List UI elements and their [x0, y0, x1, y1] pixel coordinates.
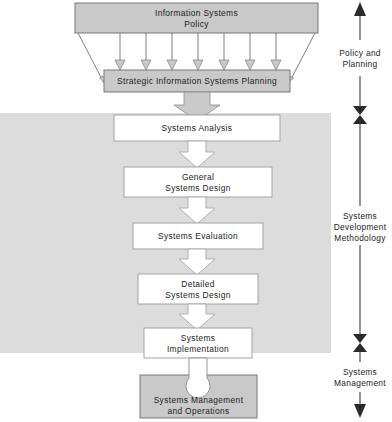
- bowtie-divider-development-management: [353, 334, 367, 352]
- systems-analysis-label: Systems Analysis: [162, 123, 233, 133]
- policy-box-line1: Information Systems: [155, 8, 238, 18]
- fan-arrow-vertical-6: [245, 33, 255, 70]
- detailed-systems-design-line1: Detailed: [181, 279, 215, 289]
- arrowhead-up-policy: [354, 2, 366, 16]
- systems-management-operations-line1: Systems Management: [154, 395, 244, 405]
- fan-arrow-vertical-7: [271, 33, 281, 70]
- arrowhead-down-management: [354, 404, 366, 418]
- fan-arrow-vertical-5: [219, 33, 229, 70]
- detailed-systems-design-line2: Systems Design: [165, 290, 230, 300]
- fan-arrow-vertical-3: [167, 33, 177, 70]
- policy-box-line2: Policy: [184, 19, 209, 29]
- systems-evaluation-label: Systems Evaluation: [158, 231, 238, 241]
- connector-implementation-to-management: [186, 358, 210, 398]
- phase-policy-line1: Policy and: [339, 48, 381, 58]
- phase-management-line2: Management: [334, 378, 386, 388]
- systems-management-operations-line2: and Operations: [167, 406, 229, 416]
- planning-box-label: Strategic Information Systems Planning: [117, 76, 277, 86]
- phase-development-line1: Systems: [343, 211, 377, 221]
- fan-arrow-vertical-4: [193, 33, 203, 70]
- phase-policy-line2: Planning: [343, 59, 378, 69]
- systems-implementation-line2: Implementation: [167, 344, 229, 354]
- phase-development-line2: Development: [334, 222, 387, 232]
- systems-implementation-line1: Systems: [181, 333, 216, 343]
- diagram-canvas: Information Systems Policy: [0, 0, 392, 422]
- framework-diagram: Information Systems Policy: [0, 0, 392, 422]
- phase-management-line1: Systems: [343, 367, 377, 377]
- fan-arrow-vertical-2: [141, 33, 151, 70]
- fan-arrow-vertical-1: [115, 33, 125, 70]
- phase-axis-systems-management: Systems Management: [334, 352, 386, 418]
- phase-development-line3: Methodology: [334, 233, 386, 243]
- general-systems-design-line2: Systems Design: [165, 183, 230, 193]
- general-systems-design-line1: General: [182, 172, 214, 182]
- phase-axis-systems-development: Systems Development Methodology: [334, 124, 387, 352]
- phase-axis-policy-and-planning: Policy and Planning: [339, 2, 381, 124]
- bowtie-divider-policy-development: [353, 106, 367, 124]
